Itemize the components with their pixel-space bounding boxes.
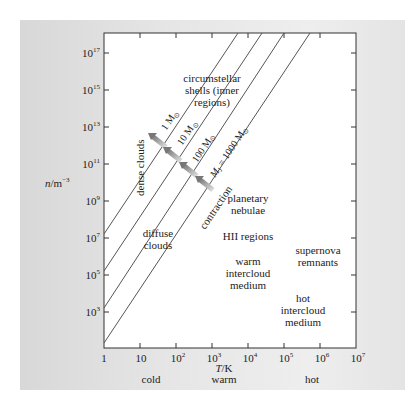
label-wim-2: intercloud (226, 267, 271, 279)
y-tick-5: 105 (86, 268, 101, 281)
x-tick-1: 10 (136, 352, 148, 364)
band-hot: hot (305, 373, 319, 385)
y-tick-3: 103 (86, 305, 101, 318)
y-axis-label: n/m−3 (45, 176, 70, 189)
band-cold: cold (142, 373, 161, 385)
label-diffuse-1: diffuse (143, 227, 173, 239)
x-tick-0: 1 (101, 352, 107, 364)
label-snr-1: supernova (295, 244, 340, 256)
label-diffuse-2: clouds (144, 239, 173, 251)
label-him-1: hot (296, 292, 310, 304)
x-tick-labels: 1 10 102 103 104 105 106 107 (101, 351, 366, 364)
label-snr-2: remnants (298, 256, 338, 268)
label-pn-2: nebulae (231, 204, 265, 216)
label-wim-1: warm (235, 255, 260, 267)
label-him-2: intercloud (281, 304, 326, 316)
x-tick-4: 104 (243, 351, 258, 364)
y-tick-11: 1011 (82, 157, 100, 170)
label-circumstellar-3: regions) (194, 96, 230, 109)
x-tick-2: 102 (171, 351, 186, 364)
label-wim-3: medium (230, 279, 266, 291)
y-tick-labels: 1017 1015 1013 1011 109 107 105 103 (82, 46, 101, 318)
y-tick-13: 1013 (82, 120, 101, 133)
label-circumstellar-1: circumstellar (183, 72, 241, 84)
y-tick-9: 109 (86, 194, 101, 207)
chart: 1017 1015 1013 1011 109 107 105 103 1 10… (0, 0, 419, 405)
label-pn-1: planetary (228, 192, 269, 204)
x-tick-6: 106 (315, 351, 330, 364)
label-dense-clouds: dense clouds (134, 139, 146, 196)
x-tick-5: 105 (279, 351, 294, 364)
x-tick-7: 107 (351, 351, 366, 364)
y-tick-17: 1017 (82, 46, 101, 59)
label-him-3: medium (285, 316, 321, 328)
band-warm: warm (211, 373, 236, 385)
label-hii: HII regions (223, 230, 273, 242)
y-tick-7: 107 (86, 231, 101, 244)
y-tick-15: 1015 (82, 83, 101, 96)
